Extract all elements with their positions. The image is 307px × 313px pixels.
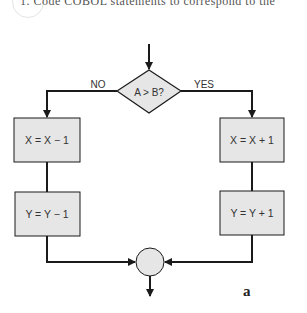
merge-connector-circle	[136, 248, 164, 276]
decision-label: A > B?	[134, 87, 164, 98]
box-y-plus-label: Y = Y + 1	[230, 207, 273, 219]
yes-label: YES	[194, 79, 214, 90]
no-branch-line	[47, 91, 117, 117]
figure-label: a	[243, 283, 251, 300]
box-x-minus-label: X = X − 1	[25, 134, 69, 146]
yes-branch-line	[181, 91, 252, 117]
right-merge-line	[165, 235, 252, 262]
no-label: NO	[91, 79, 106, 90]
left-merge-line	[47, 236, 135, 262]
flowchart	[0, 0, 307, 313]
box-x-plus-label: X = X + 1	[230, 134, 274, 146]
box-y-minus-label: Y = Y − 1	[25, 208, 68, 220]
